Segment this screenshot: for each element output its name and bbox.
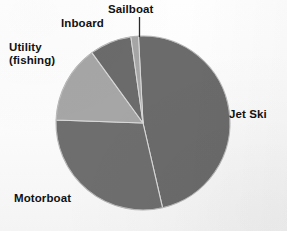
pie-label-motorboat: Motorboat [14, 192, 71, 205]
pie-label-utility-line1: Utility [9, 41, 42, 53]
pie-label-inboard-text: Inboard [61, 17, 104, 29]
pie-label-jet-ski: Jet Ski [229, 108, 267, 121]
pie-label-jet-ski-text: Jet Ski [229, 108, 267, 120]
pie-label-sailboat-text: Sailboat [108, 3, 154, 15]
pie-label-motorboat-text: Motorboat [14, 192, 71, 204]
pie-label-utility-fishing: Utility (fishing) [9, 41, 55, 67]
pie-label-inboard: Inboard [61, 17, 104, 30]
pie-label-sailboat: Sailboat [108, 3, 154, 16]
pie-label-utility-line2: (fishing) [9, 54, 55, 67]
pie-chart-figure: Sailboat Inboard Utility (fishing) Jet S… [0, 0, 287, 231]
